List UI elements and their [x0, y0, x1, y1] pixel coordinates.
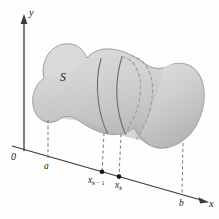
x-axis-line — [12, 146, 201, 200]
y-axis-arrowhead — [21, 14, 28, 24]
x-axis-arrowhead — [198, 197, 209, 203]
solid-body-group — [33, 44, 205, 149]
drop-line-b — [182, 143, 183, 195]
point-marker-x-k-minus-1 — [100, 169, 105, 174]
y-axis-label: y — [28, 7, 34, 18]
tick-label-x-k-minus-1: xk − 1 — [87, 175, 105, 186]
tick-label-a: a — [44, 161, 49, 171]
solid-label: S — [60, 71, 66, 83]
tick-label-x-k-minus-1-subscript-op: − 1 — [95, 179, 105, 186]
drop-line-x-k — [119, 134, 121, 178]
tick-label-x-k: xk — [114, 180, 122, 191]
origin-label: 0 — [11, 151, 16, 162]
drop-line-x-k-minus-1 — [102, 133, 104, 174]
tick-label-b: b — [179, 198, 184, 208]
figure-container: y x 0 S a b xk − 1 xk — [0, 0, 219, 219]
x-axis-label: x — [208, 198, 214, 209]
solid-of-revolution-diagram: y x 0 S a b xk − 1 xk — [0, 0, 219, 219]
tick-label-x-k-subscript: k — [119, 184, 122, 191]
point-marker-x-k — [117, 174, 122, 179]
